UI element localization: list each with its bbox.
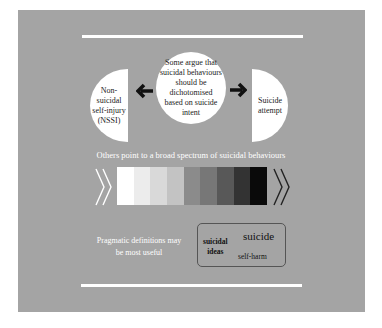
dichotomy-circle: Some argue that suicidal behaviours shou… bbox=[156, 52, 226, 124]
double-chevron-right-icon bbox=[272, 168, 292, 206]
spectrum-block bbox=[234, 167, 251, 205]
spectrum-block bbox=[200, 167, 217, 205]
pragmatic-definitions-text: Pragmatic definitions may be most useful bbox=[88, 235, 190, 259]
spectrum-block bbox=[150, 167, 167, 205]
arrow-right-icon bbox=[229, 82, 247, 98]
spectrum-gradient-bar bbox=[117, 167, 267, 205]
definitions-box: suicidal ideas suicide self-harm bbox=[197, 223, 286, 267]
spectrum-block bbox=[167, 167, 184, 205]
arrow-left-icon bbox=[136, 83, 154, 99]
double-chevron-left-icon bbox=[95, 168, 115, 206]
self-harm-term: self-harm bbox=[238, 252, 267, 261]
spectrum-block bbox=[134, 167, 151, 205]
top-divider bbox=[82, 35, 303, 38]
bottom-divider bbox=[81, 284, 302, 287]
suicide-term: suicide bbox=[243, 230, 274, 242]
spectrum-block bbox=[117, 167, 134, 205]
spectrum-block bbox=[217, 167, 234, 205]
nssi-label: Non- suicidal self-injury (NSSI) bbox=[92, 86, 125, 126]
dichotomy-text: Some argue that suicidal behaviours shou… bbox=[160, 58, 222, 118]
spectrum-caption: Others point to a broad spectrum of suic… bbox=[0, 150, 382, 160]
spectrum-block bbox=[184, 167, 201, 205]
spectrum-block bbox=[250, 167, 267, 205]
suicide-attempt-label: Suicide attempt bbox=[258, 96, 282, 116]
suicidal-ideas-term: suicidal ideas bbox=[203, 237, 228, 257]
